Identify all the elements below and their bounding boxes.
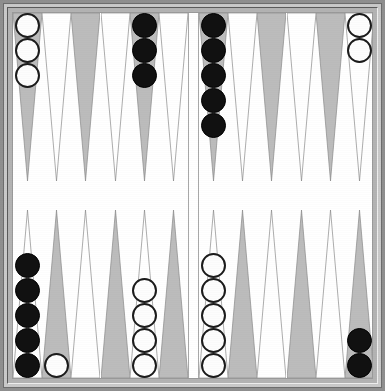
checker-white[interactable] xyxy=(132,278,157,303)
checker-black[interactable] xyxy=(132,13,157,38)
checker-white[interactable] xyxy=(347,38,372,63)
checker-white[interactable] xyxy=(347,13,372,38)
point-top-right-5[interactable] xyxy=(316,13,345,181)
checker-black[interactable] xyxy=(201,63,226,88)
checker-black[interactable] xyxy=(347,328,372,353)
checker-white[interactable] xyxy=(132,328,157,353)
point-bottom-right-3[interactable] xyxy=(257,210,286,378)
checker-black[interactable] xyxy=(15,303,40,328)
playing-field xyxy=(12,12,373,379)
checker-black[interactable] xyxy=(201,13,226,38)
checker-black[interactable] xyxy=(132,63,157,88)
point-top-left-3[interactable] xyxy=(71,13,100,181)
point-bottom-right-5[interactable] xyxy=(316,210,345,378)
backgammon-board xyxy=(0,0,385,391)
checker-white[interactable] xyxy=(15,63,40,88)
checker-black[interactable] xyxy=(15,328,40,353)
point-bottom-left-6[interactable] xyxy=(159,210,188,378)
point-top-right-4[interactable] xyxy=(287,13,316,181)
point-top-left-4[interactable] xyxy=(101,13,130,181)
checker-white[interactable] xyxy=(201,253,226,278)
checker-white[interactable] xyxy=(201,278,226,303)
checker-white[interactable] xyxy=(15,13,40,38)
point-bottom-left-3[interactable] xyxy=(71,210,100,378)
point-bottom-left-4[interactable] xyxy=(101,210,130,378)
point-bottom-right-2[interactable] xyxy=(228,210,257,378)
top-left-quadrant xyxy=(13,13,188,195)
checker-white[interactable] xyxy=(132,303,157,328)
bottom-left-quadrant xyxy=(13,196,188,378)
center-bar[interactable] xyxy=(188,13,199,379)
checker-black[interactable] xyxy=(347,353,372,378)
checker-black[interactable] xyxy=(132,38,157,63)
checker-white[interactable] xyxy=(201,328,226,353)
point-top-left-2[interactable] xyxy=(42,13,71,181)
checker-white[interactable] xyxy=(201,353,226,378)
point-bottom-right-4[interactable] xyxy=(287,210,316,378)
checker-white[interactable] xyxy=(201,303,226,328)
checker-black[interactable] xyxy=(15,253,40,278)
top-right-quadrant xyxy=(199,13,373,195)
checker-black[interactable] xyxy=(15,353,40,378)
bottom-right-quadrant xyxy=(199,196,373,378)
checker-white[interactable] xyxy=(15,38,40,63)
checker-black[interactable] xyxy=(201,38,226,63)
point-top-left-6[interactable] xyxy=(159,13,188,181)
point-top-right-3[interactable] xyxy=(257,13,286,181)
checker-black[interactable] xyxy=(201,113,226,138)
point-top-right-2[interactable] xyxy=(228,13,257,181)
checker-white[interactable] xyxy=(132,353,157,378)
checker-black[interactable] xyxy=(201,88,226,113)
checker-black[interactable] xyxy=(15,278,40,303)
